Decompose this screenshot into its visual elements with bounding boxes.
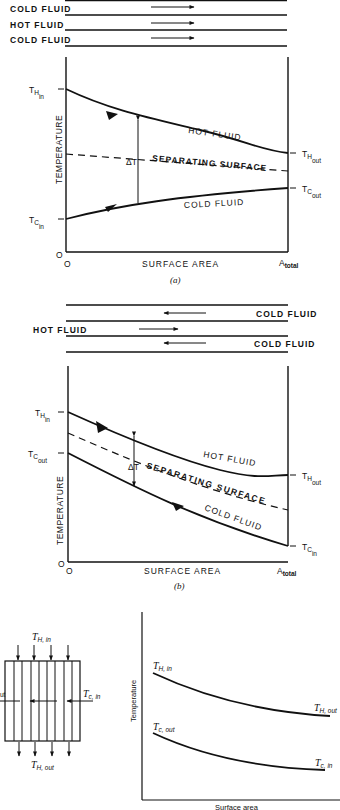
stream-label: COLD FLUID	[10, 4, 71, 14]
stream-label: HOT FLUID	[33, 325, 87, 335]
cold-fluid-curve	[66, 188, 288, 219]
stream-label: COLD FLUID	[254, 339, 315, 349]
delta-t-label: ΔT	[126, 157, 137, 167]
flow-arrow-icon	[151, 7, 194, 38]
hot-fluid-curve	[66, 89, 288, 153]
th-in-label: TH, in	[153, 660, 172, 672]
th-out-label: THout	[302, 471, 321, 486]
th-in-label: TH, in	[32, 631, 51, 643]
caption-a: (a)	[170, 275, 181, 285]
x-axis-label: SURFACE AREA	[142, 259, 219, 269]
caption-b: (b)	[174, 581, 185, 591]
figure-b: COLD FLUID HOT FLUID COLD FLUID ΔT HOT F…	[28, 305, 321, 591]
origin-x-label: O	[66, 566, 73, 576]
hot-fluid-label: HOT FLUID	[203, 449, 258, 468]
stream-label: COLD FLUID	[10, 35, 71, 45]
y-axis-label: Temperature	[129, 680, 138, 722]
a-total-label: Atotal	[277, 566, 297, 577]
delta-t-label: ΔT	[128, 462, 139, 472]
tc-out-partial-label: ut	[0, 691, 6, 698]
crossflow-schematic: TH, in TH, out Tc, in ut	[0, 631, 101, 771]
crossflow-plot: TH, in TH, out Tc, out Tc, in Temperatur…	[129, 612, 340, 810]
direction-arrow-icon	[96, 421, 108, 433]
th-in-label: THin	[35, 408, 50, 423]
separating-surface-label: SEPARATING SURFACE	[152, 153, 268, 173]
cold-fluid-label: COLD FLUID	[184, 197, 245, 210]
direction-arrow-icon	[106, 111, 118, 120]
tc-in-label: TCin	[29, 215, 44, 230]
th-out-label: THout	[302, 149, 321, 164]
stream-label: HOT FLUID	[10, 20, 64, 30]
hot-fluid-label: HOT FLUID	[188, 125, 243, 142]
y-axis-label: TEMPERATURE	[55, 476, 65, 545]
flow-arrow-icon	[139, 313, 206, 343]
tc-in-label: TCin	[302, 542, 317, 557]
x-axis-label: Surface area	[215, 803, 259, 810]
hot-fluid-curve	[153, 673, 330, 716]
a-total-label: Atotal	[279, 258, 299, 269]
tc-out-label: TCout	[28, 449, 47, 464]
th-out-label: TH, out	[31, 759, 55, 771]
origin-y-label: O	[58, 559, 65, 569]
tc-in-label: Tc, in	[83, 688, 101, 700]
direction-arrow-icon	[172, 502, 184, 511]
tc-in-label: Tc, in	[315, 757, 333, 769]
origin-y-label: O	[56, 250, 63, 260]
tc-out-label: Tc, out	[153, 721, 176, 733]
tc-out-label: TCout	[302, 184, 321, 199]
y-axis-label: TEMPERATURE	[54, 115, 64, 184]
heat-exchanger-figure: COLD FLUID HOT FLUID COLD FLUID ΔT HOT F…	[0, 0, 340, 810]
origin-x-label: O	[64, 259, 71, 269]
cold-fluid-curve	[153, 733, 325, 770]
th-out-label: TH, out	[314, 702, 338, 714]
th-in-label: THin	[29, 85, 44, 100]
stream-label: COLD FLUID	[256, 309, 317, 319]
figure-a: COLD FLUID HOT FLUID COLD FLUID ΔT HOT F…	[10, 1, 321, 286]
x-axis-label: SURFACE AREA	[144, 566, 221, 576]
